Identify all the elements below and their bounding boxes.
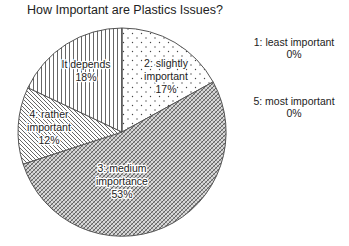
label-rather-line2: important — [27, 121, 71, 133]
label-slightly-pct: 17% — [155, 83, 176, 95]
least-important-label: 1: least important — [234, 36, 349, 48]
label-medium-pct: 53% — [111, 188, 132, 200]
label-depends-line1: It depends — [61, 58, 110, 70]
label-medium-line1: 3: medium — [97, 162, 146, 174]
zero-slice-least-important: 1: least important 0% — [234, 36, 349, 60]
label-rather-pct: 12% — [38, 134, 59, 146]
label-slightly-line2: important — [144, 70, 188, 82]
label-slightly-line1: 2: slightly — [144, 57, 189, 69]
label-medium-line2: importance — [96, 175, 148, 187]
most-important-label: 5: most important — [234, 95, 349, 107]
label-rather-line1: 4: rather — [29, 108, 69, 120]
zero-slice-most-important: 5: most important 0% — [234, 95, 349, 119]
least-important-pct: 0% — [234, 48, 349, 60]
label-depends-pct: 18% — [75, 71, 96, 83]
most-important-pct: 0% — [234, 107, 349, 119]
